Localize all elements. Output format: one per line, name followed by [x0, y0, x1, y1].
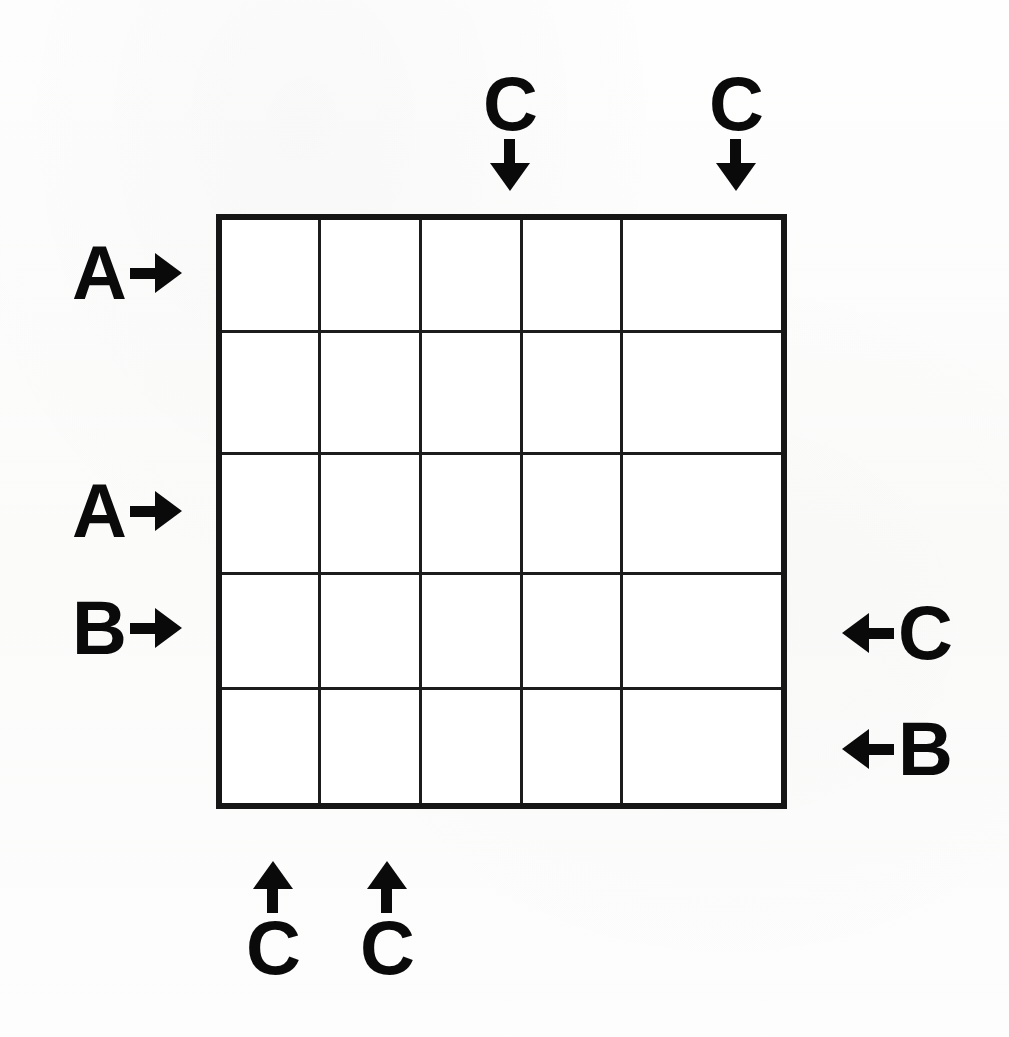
clue-left-1-label: A [72, 240, 126, 305]
grid-cell-r3c5[interactable] [623, 455, 781, 575]
grid-cell-r5c1[interactable] [222, 690, 321, 803]
grid-cell-r4c5[interactable] [623, 575, 781, 690]
arrow-up-icon [253, 861, 293, 913]
grid-cell-r2c3[interactable] [422, 333, 523, 455]
clue-bottom-2-label: C [360, 915, 414, 980]
clue-bottom-2[interactable]: C [357, 846, 417, 996]
grid-cell-r3c2[interactable] [321, 455, 422, 575]
grid-cell-r1c3[interactable] [422, 220, 523, 333]
grid-cell-r5c4[interactable] [523, 690, 623, 803]
clue-right-2-label: B [898, 716, 952, 781]
grid-cell-r3c4[interactable] [523, 455, 623, 575]
arrow-left-icon [842, 613, 894, 653]
grid-cell-r4c4[interactable] [523, 575, 623, 690]
clue-bottom-1[interactable]: C [243, 846, 303, 996]
clue-right-1[interactable]: C [822, 598, 972, 668]
puzzle-diagram: C C A A B C [0, 0, 1009, 1037]
puzzle-grid [216, 214, 787, 809]
grid-cell-r2c4[interactable] [523, 333, 623, 455]
grid-cell-r3c1[interactable] [222, 455, 321, 575]
arrow-right-icon [130, 608, 182, 648]
grid-cell-r5c5[interactable] [623, 690, 781, 803]
clue-left-3[interactable]: B [52, 593, 202, 663]
grid-cell-r1c5[interactable] [623, 220, 781, 333]
clue-left-2[interactable]: A [52, 476, 202, 546]
grid-cell-r1c4[interactable] [523, 220, 623, 333]
grid-cell-r4c3[interactable] [422, 575, 523, 690]
grid-cell-r1c2[interactable] [321, 220, 422, 333]
grid-cell-r3c3[interactable] [422, 455, 523, 575]
clue-left-3-label: B [72, 595, 126, 660]
grid-cell-r2c1[interactable] [222, 333, 321, 455]
clue-right-1-label: C [898, 600, 952, 665]
grid-cell-r1c1[interactable] [222, 220, 321, 333]
clue-bottom-1-label: C [246, 915, 300, 980]
arrow-down-icon [716, 139, 756, 191]
grid-cell-r5c2[interactable] [321, 690, 422, 803]
grid-cell-r2c2[interactable] [321, 333, 422, 455]
clue-top-2-label: C [709, 71, 763, 136]
clue-right-2[interactable]: B [822, 714, 972, 784]
grid-cell-r4c2[interactable] [321, 575, 422, 690]
clue-top-1-label: C [483, 71, 537, 136]
arrow-down-icon [490, 139, 530, 191]
clue-top-1[interactable]: C [480, 56, 540, 206]
arrow-left-icon [842, 729, 894, 769]
arrow-right-icon [130, 253, 182, 293]
clue-left-1[interactable]: A [52, 238, 202, 308]
clue-top-2[interactable]: C [706, 56, 766, 206]
grid-cell-r5c3[interactable] [422, 690, 523, 803]
clue-left-2-label: A [72, 478, 126, 543]
arrow-up-icon [367, 861, 407, 913]
grid-cell-r4c1[interactable] [222, 575, 321, 690]
grid-cell-r2c5[interactable] [623, 333, 781, 455]
arrow-right-icon [130, 491, 182, 531]
